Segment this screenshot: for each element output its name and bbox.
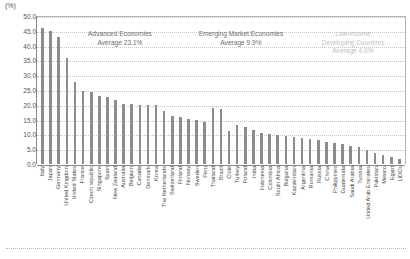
y-axis-tick-label: 15.0 [6, 116, 36, 123]
x-label-slot: Canada [135, 166, 143, 256]
x-axis-tick-label: Chile [226, 166, 232, 179]
x-label-slot: Indonesia [258, 166, 266, 256]
x-axis-tick-label: France [79, 166, 85, 183]
bar [171, 116, 174, 164]
bar [382, 155, 385, 164]
bar [285, 136, 288, 164]
x-label-slot: LIDCs [396, 166, 404, 256]
x-axis-tick-label: China [324, 166, 330, 181]
x-axis-tick-label: Switzerland [169, 166, 175, 195]
x-label-slot: Peru [201, 166, 209, 256]
x-axis-tick-label: LIDCs [397, 166, 403, 182]
x-label-slot: Mexico [380, 166, 388, 256]
bar [309, 139, 312, 164]
annotation-low-income-developing-countries: Low-income Developing Countries Average … [300, 30, 406, 56]
bar [203, 122, 206, 164]
x-axis-tick-label: Tunisia [357, 166, 363, 184]
x-label-slot: United Arab Emirates [364, 166, 372, 256]
x-label-slot: Switzerland [168, 166, 176, 256]
bar [66, 58, 69, 164]
bar [276, 135, 279, 164]
x-axis-tick-label: Italy [39, 166, 45, 176]
x-label-slot: China [323, 166, 331, 256]
y-axis-tick-label: 50.0 [6, 13, 36, 20]
annotation-emerging-market-economies: Emerging Market Economies Average 9.9% [178, 30, 304, 47]
x-label-slot: Russia [315, 166, 323, 256]
bar [398, 159, 401, 164]
bar [147, 105, 150, 164]
x-label-slot: Italy [38, 166, 46, 256]
x-axis-tick-label: India [251, 166, 257, 178]
x-label-slot: Thailand [209, 166, 217, 256]
x-axis-tick-label: Kazakhstan [291, 166, 297, 195]
bar [333, 143, 336, 164]
x-label-slot: Bulgaria [282, 166, 290, 256]
annotation-line-1: Low-income [300, 30, 406, 39]
y-axis-tick-label: 20.0 [6, 101, 36, 108]
x-label-slot: Denmark [144, 166, 152, 256]
x-axis-tick-label: Pakistan [373, 166, 379, 187]
x-axis-tick-label: Egypt [389, 166, 395, 180]
bar [260, 133, 263, 164]
x-label-slot: India [250, 166, 258, 256]
x-axis-tick-label: Thailand [210, 166, 216, 187]
x-axis-tick-label: Denmark [145, 166, 151, 189]
bar [349, 146, 352, 164]
x-axis-tick-label: Czech republic [88, 166, 94, 203]
x-axis-tick-label: Spain [104, 166, 110, 180]
bar [74, 82, 77, 164]
x-axis-tick-label: Finland [177, 166, 183, 184]
bar [390, 157, 393, 164]
bar [268, 134, 271, 164]
bar [341, 144, 344, 164]
bar [228, 131, 231, 164]
x-axis-tick-label: Singapore [96, 166, 102, 192]
y-axis-tick-label: 30.0 [6, 72, 36, 79]
bar-slot [47, 17, 55, 164]
annotation-line-3: Average 4.0% [300, 47, 406, 56]
x-axis-tick-label: Colombia [267, 166, 273, 190]
bar [366, 150, 369, 164]
x-axis-tick-label: United Arab Emirates [365, 166, 371, 219]
x-axis-tick-label: Korea [153, 166, 159, 181]
x-axis-tick-label: Mexico [381, 166, 387, 184]
x-axis-tick-label: Japan [47, 166, 53, 181]
x-axis-tick-label: Saudi Arabia [349, 166, 355, 198]
bar [220, 109, 223, 164]
y-axis-tick-label: 35.0 [6, 57, 36, 64]
x-label-slot: Saudi Arabia [347, 166, 355, 256]
bar [317, 140, 320, 164]
y-axis-tick-label: 40.0 [6, 42, 36, 49]
bar [114, 100, 117, 164]
y-axis-tick-label: 10.0 [6, 131, 36, 138]
x-label-slot: Turkey [233, 166, 241, 256]
bar [301, 138, 304, 164]
bar-chart: (%) 0.05.010.015.020.025.030.035.040.045… [0, 0, 410, 259]
x-axis-tick-label: Philippines [332, 166, 338, 193]
x-axis-tick-label: Norway [185, 166, 191, 185]
x-label-slot: Singapore [95, 166, 103, 256]
x-axis-tick-label: Argentina [300, 166, 306, 190]
bar [236, 125, 239, 164]
y-axis-tick-label: 0.0 [6, 161, 36, 168]
x-axis-tick-label: Romania [308, 166, 314, 188]
x-label-slot: Norway [184, 166, 192, 256]
x-axis-tick-label: Canada [136, 166, 142, 186]
annotation-line-2: Average 9.9% [178, 39, 304, 48]
bar [374, 153, 377, 164]
bar [90, 92, 93, 164]
x-axis-labels: ItalyJapanGermanyUnited KingdomUnited St… [36, 166, 406, 256]
bar [187, 119, 190, 164]
x-axis-tick-label: Brazil [218, 166, 224, 180]
x-label-slot: Philippines [331, 166, 339, 256]
x-label-slot: Australia [119, 166, 127, 256]
x-label-slot: Finland [176, 166, 184, 256]
x-label-slot: South Africa [274, 166, 282, 256]
x-axis-tick-label: Sweden [194, 166, 200, 186]
x-axis-tick-label: United States [71, 166, 77, 200]
annotation-line-2: Developing Countries [300, 39, 406, 48]
x-label-slot: The Netherlands [160, 166, 168, 256]
x-axis-tick-label: Australia [120, 166, 126, 188]
x-label-slot: Korea [152, 166, 160, 256]
x-axis-tick-label: Indonesia [259, 166, 265, 190]
